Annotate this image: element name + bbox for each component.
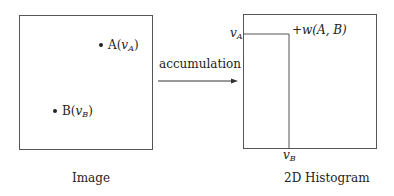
y-marker-va: vA <box>230 27 243 41</box>
histogram-caption: 2D Histogram <box>284 172 370 184</box>
x-marker-vb: vB <box>283 149 296 163</box>
arrow-head-icon <box>231 79 238 84</box>
weight-increment-label: +w(A, B) <box>292 24 347 36</box>
